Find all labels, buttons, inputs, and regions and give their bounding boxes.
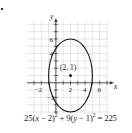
- ellipse-equation: 25(x − 2)2 + 9(y − 1)2 = 225: [24, 112, 132, 123]
- x-tick-label-neg2: −2: [35, 86, 43, 94]
- center-point: [69, 74, 72, 77]
- y-tick-label-neg2: −2: [47, 94, 55, 102]
- x-tick-label-2: 2: [69, 86, 73, 94]
- y-tick-label-6: 6: [50, 36, 54, 44]
- y-axis: [54, 18, 57, 114]
- x-tick-label-6: 6: [98, 86, 102, 94]
- y-axis-label: y: [49, 12, 54, 21]
- center-label: (2, 1): [60, 63, 77, 72]
- x-axis-label: x: [113, 82, 118, 91]
- x-tick-label-4: 4: [83, 86, 87, 94]
- y-tick-label-4: 4: [50, 50, 54, 58]
